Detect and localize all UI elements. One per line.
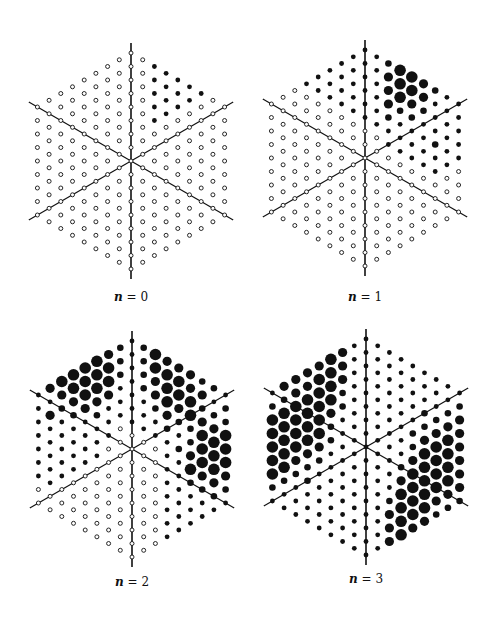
- filled-lattice-dot: [352, 478, 357, 483]
- filled-lattice-dot: [375, 478, 380, 483]
- filled-lattice-dot: [421, 424, 428, 431]
- filled-lattice-dot: [419, 448, 431, 460]
- filled-lattice-dot: [398, 464, 405, 471]
- filled-lattice-dot: [267, 468, 279, 480]
- filled-lattice-dot: [399, 357, 404, 362]
- filled-lattice-dot: [339, 403, 346, 410]
- filled-lattice-dot: [352, 384, 357, 389]
- filled-lattice-dot: [387, 377, 392, 382]
- filled-lattice-dot: [375, 532, 380, 537]
- filled-lattice-dot: [375, 384, 380, 389]
- filled-lattice-dot: [387, 364, 392, 369]
- filled-lattice-dot: [329, 478, 334, 483]
- filled-lattice-dot: [317, 512, 322, 517]
- panel-caption-n3: n = 3: [349, 572, 383, 586]
- filled-lattice-dot: [291, 388, 300, 397]
- filled-lattice-dot: [364, 526, 369, 531]
- filled-lattice-dot: [375, 546, 380, 551]
- filled-lattice-dot: [340, 431, 345, 436]
- filled-lattice-dot: [364, 539, 369, 544]
- filled-lattice-dot: [420, 436, 429, 445]
- filled-lattice-dot: [456, 403, 463, 410]
- filled-lattice-dot: [421, 410, 428, 417]
- filled-lattice-dot: [386, 498, 393, 505]
- filled-lattice-dot: [340, 472, 345, 477]
- filled-lattice-dot: [433, 417, 440, 424]
- filled-lattice-dot: [305, 505, 310, 510]
- filled-lattice-dot: [375, 451, 380, 456]
- filled-lattice-dot: [422, 384, 427, 389]
- filled-lattice-dot: [326, 409, 335, 418]
- filled-lattice-dot: [385, 537, 394, 546]
- filled-lattice-dot: [269, 484, 276, 491]
- filled-lattice-dot: [340, 485, 345, 490]
- filled-lattice-dot: [313, 414, 325, 426]
- filled-lattice-dot: [278, 448, 290, 460]
- filled-lattice-dot: [317, 485, 322, 490]
- filled-lattice-dot: [303, 449, 312, 458]
- filled-lattice-dot: [281, 397, 288, 404]
- filled-lattice-dot: [315, 361, 324, 370]
- filled-lattice-dot: [410, 444, 417, 451]
- filled-lattice-dot: [395, 516, 407, 528]
- filled-lattice-dot: [291, 456, 300, 465]
- filled-lattice-dot: [325, 367, 337, 379]
- filled-lattice-dot: [282, 492, 287, 497]
- filled-lattice-dot: [434, 377, 439, 382]
- filled-lattice-dot: [315, 442, 324, 451]
- filled-lattice-dot: [442, 448, 454, 460]
- filled-lattice-dot: [325, 381, 337, 393]
- filled-lattice-dot: [407, 495, 419, 507]
- filled-lattice-dot: [395, 529, 407, 541]
- filled-lattice-dot: [340, 445, 345, 450]
- filled-lattice-dot: [455, 469, 464, 478]
- filled-lattice-dot: [302, 408, 314, 420]
- filled-lattice-dot: [290, 441, 302, 453]
- filled-lattice-dot: [442, 435, 454, 447]
- filled-lattice-dot: [352, 465, 357, 470]
- filled-lattice-dot: [430, 441, 442, 453]
- filled-lattice-dot: [293, 471, 300, 478]
- filled-lattice-dot: [290, 401, 302, 413]
- filled-lattice-dot: [455, 442, 464, 451]
- filled-lattice-dot: [364, 458, 369, 463]
- filled-lattice-dot: [317, 499, 322, 504]
- filled-lattice-dot: [293, 485, 298, 490]
- filled-lattice-dot: [419, 475, 431, 487]
- filled-lattice-dot: [340, 526, 345, 531]
- filled-lattice-dot: [399, 424, 404, 429]
- filled-lattice-dot: [267, 414, 279, 426]
- filled-lattice-dot: [432, 496, 441, 505]
- filled-lattice-dot: [375, 492, 380, 497]
- filled-lattice-dot: [433, 511, 440, 518]
- filled-lattice-dot: [278, 435, 290, 447]
- filled-lattice-dot: [407, 482, 419, 494]
- filled-lattice-dot: [304, 464, 311, 471]
- filled-lattice-dot: [340, 418, 345, 423]
- filled-lattice-dot: [364, 485, 369, 490]
- filled-lattice-dot: [364, 512, 369, 517]
- filled-lattice-dot: [387, 418, 392, 423]
- filled-lattice-dot: [422, 370, 427, 375]
- filled-lattice-dot: [352, 438, 357, 443]
- filled-lattice-dot: [329, 451, 334, 456]
- filled-lattice-dot: [385, 523, 394, 532]
- filled-lattice-dot: [455, 456, 464, 465]
- filled-lattice-dot: [305, 519, 310, 524]
- filled-lattice-dot: [457, 391, 462, 396]
- filled-lattice-dot: [387, 391, 392, 396]
- filled-lattice-dot: [278, 462, 290, 474]
- filled-lattice-dot: [364, 404, 369, 409]
- filled-lattice-dot: [455, 483, 464, 492]
- filled-lattice-dot: [375, 465, 380, 470]
- filled-lattice-dot: [364, 377, 369, 382]
- filled-lattice-dot: [410, 364, 415, 369]
- filled-lattice-dot: [399, 438, 404, 443]
- filled-lattice-dot: [430, 468, 442, 480]
- filled-lattice-dot: [443, 422, 452, 431]
- filled-lattice-dot: [375, 424, 380, 429]
- filled-lattice-dot: [352, 411, 357, 416]
- filled-lattice-dot: [399, 384, 404, 389]
- filled-lattice-dot: [305, 492, 310, 497]
- filled-lattice-dot: [338, 375, 347, 384]
